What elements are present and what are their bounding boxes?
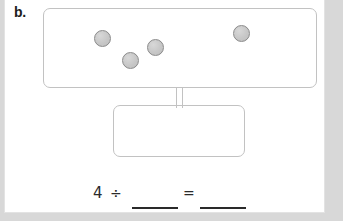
counter-circle[interactable] (147, 39, 164, 56)
counter-circle[interactable] (122, 52, 139, 69)
divisor-answer-blank[interactable] (132, 207, 178, 209)
divide-symbol: ÷ (110, 183, 122, 203)
equation-dividend: 4 (93, 183, 103, 203)
counter-circle[interactable] (233, 25, 250, 42)
total-set-box[interactable] (43, 8, 317, 88)
counter-circle[interactable] (94, 30, 111, 47)
equal-group-box[interactable] (113, 105, 245, 157)
worksheet-page: b. 4 ÷ = (0, 0, 343, 221)
paper-sheet: b. 4 ÷ = (4, 0, 325, 213)
equals-symbol: = (183, 183, 195, 203)
problem-label: b. (14, 5, 26, 19)
quotient-answer-blank[interactable] (200, 207, 246, 209)
